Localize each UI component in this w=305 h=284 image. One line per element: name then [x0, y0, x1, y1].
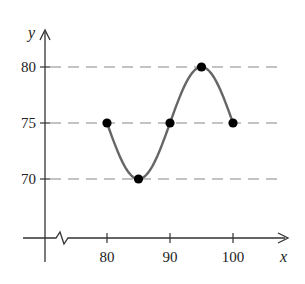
gridlines [50, 67, 280, 179]
x-tick-label: 90 [163, 249, 178, 265]
x-axis [23, 232, 285, 244]
x-tick-label: 100 [222, 249, 245, 265]
y-tick-label: 70 [21, 171, 36, 187]
y-tick-label: 75 [21, 115, 36, 131]
data-point [228, 118, 237, 127]
data-point [165, 118, 174, 127]
chart: 7075808090100 y x [0, 0, 305, 284]
data-point [134, 174, 143, 183]
y-axis-label: y [26, 24, 36, 42]
data-point [197, 62, 206, 71]
y-tick-label: 80 [21, 59, 36, 75]
ticks: 7075808090100 [21, 59, 244, 265]
x-axis-label: x [279, 248, 287, 265]
axes [23, 30, 288, 262]
x-tick-label: 80 [100, 249, 115, 265]
data-point [102, 118, 111, 127]
